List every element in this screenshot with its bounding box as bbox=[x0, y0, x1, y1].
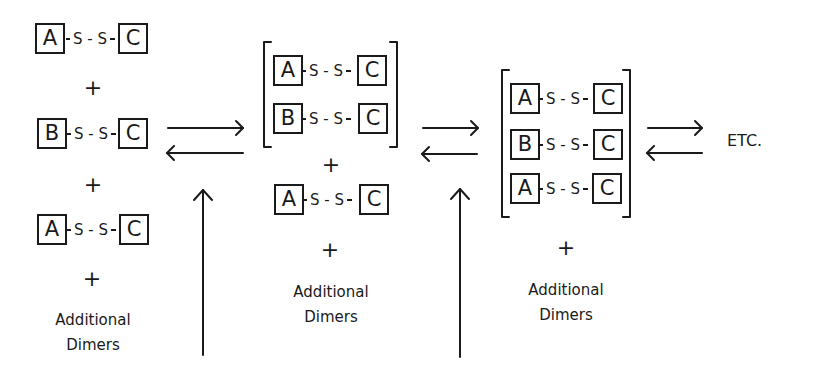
plus-sign: + bbox=[83, 268, 101, 290]
plus-sign: + bbox=[84, 174, 102, 196]
disulfide-link: S - S bbox=[67, 126, 116, 142]
subunit-box: A bbox=[510, 173, 540, 204]
subunit-box: A bbox=[37, 214, 67, 245]
disulfide-link: S - S bbox=[302, 111, 351, 127]
subunit-box: B bbox=[273, 103, 303, 134]
subunit-box: C bbox=[119, 214, 149, 245]
subunit-box: C bbox=[118, 23, 148, 54]
plus-sign: + bbox=[322, 154, 340, 176]
plus-sign: + bbox=[557, 237, 575, 259]
disulfide-link: S - S bbox=[66, 31, 115, 47]
subunit-box: C bbox=[357, 55, 387, 86]
subunit-box: C bbox=[359, 184, 389, 215]
etc-label: ETC. bbox=[727, 133, 762, 149]
subunit-box: A bbox=[274, 184, 304, 215]
disulfide-link: S - S bbox=[67, 222, 116, 238]
subunit-box: B bbox=[37, 118, 67, 149]
additional-dimers-label: Additional Dimers bbox=[55, 308, 130, 358]
plus-sign: + bbox=[84, 77, 102, 99]
subunit-box: C bbox=[593, 83, 623, 114]
disulfide-link: S - S bbox=[303, 192, 352, 208]
additional-dimers-label: Additional Dimers bbox=[293, 280, 368, 330]
subunit-box: B bbox=[510, 129, 540, 160]
subunit-box: A bbox=[35, 23, 65, 54]
equilibrium-arrow-1 bbox=[167, 121, 243, 160]
subunit-box: C bbox=[118, 118, 148, 149]
disulfide-link: S - S bbox=[539, 181, 588, 197]
plus-sign: + bbox=[321, 239, 339, 261]
up-arrow-2 bbox=[451, 189, 469, 357]
disulfide-link: S - S bbox=[539, 137, 588, 153]
up-arrow-1 bbox=[194, 190, 212, 355]
subunit-box: A bbox=[510, 83, 540, 114]
subunit-box: C bbox=[358, 103, 388, 134]
subunit-box: A bbox=[273, 55, 303, 86]
disulfide-link: S - S bbox=[302, 63, 351, 79]
additional-dimers-label: Additional Dimers bbox=[528, 278, 603, 328]
equilibrium-arrow-2 bbox=[422, 121, 478, 161]
disulfide-link: S - S bbox=[539, 91, 588, 107]
equilibrium-arrow-3 bbox=[647, 121, 702, 160]
subunit-box: C bbox=[592, 173, 622, 204]
subunit-box: C bbox=[593, 129, 623, 160]
